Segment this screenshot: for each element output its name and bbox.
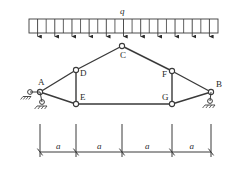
truss-node-d [73, 67, 78, 72]
support-a-ground-left [21, 97, 31, 100]
truss-member-ad [40, 70, 76, 92]
dimension-line-group [37, 124, 213, 157]
truss-node-g [169, 101, 174, 106]
node-label-f: F [162, 70, 167, 79]
truss-member-fb [172, 71, 211, 92]
truss-member-ae [40, 92, 76, 104]
truss-member-dc [76, 46, 122, 70]
support-b-ground [203, 105, 215, 108]
truss-member-cf [122, 46, 172, 71]
node-label-d: D [80, 69, 87, 78]
truss-node-c [119, 43, 124, 48]
truss-member-gb [172, 92, 211, 104]
support-hatch [203, 105, 205, 108]
dimension-label-a-3: a [145, 142, 150, 151]
support-a-ground-bottom [35, 106, 47, 109]
dimension-label-a-4: a [190, 142, 195, 151]
truss-node-f [169, 68, 174, 73]
load-symbol-label: q [120, 7, 125, 16]
dimension-label-a-1: a [56, 142, 61, 151]
dimension-label-a-2: a [97, 142, 102, 151]
truss-diagram-svg [0, 0, 240, 171]
truss-node-e [73, 101, 78, 106]
node-label-e: E [80, 93, 86, 102]
truss-figure: ABCDEFGaaaa q [0, 0, 240, 171]
node-label-b: B [216, 80, 222, 89]
node-label-a: A [38, 78, 45, 87]
node-label-c: C [120, 51, 126, 60]
support-hatch [21, 97, 23, 100]
node-label-g: G [162, 93, 169, 102]
distributed-load-group [29, 19, 218, 37]
support-hatch [35, 106, 37, 109]
